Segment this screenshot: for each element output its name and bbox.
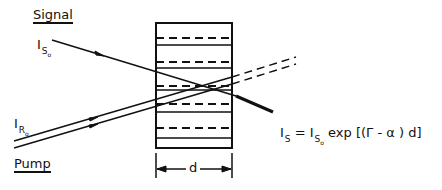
signal-input-intensity: ISo [37, 38, 51, 51]
gain-equation: IS = ISo exp [(Γ - α ) d] [280, 126, 422, 139]
signal-beam [52, 40, 273, 112]
diagram-canvas [0, 0, 442, 190]
crystal [156, 23, 232, 148]
signal-label: Signal [33, 8, 73, 24]
thickness-label: d [189, 161, 197, 174]
pump-label: Pump [14, 157, 51, 173]
pump-input-intensity: IRo [14, 117, 29, 130]
